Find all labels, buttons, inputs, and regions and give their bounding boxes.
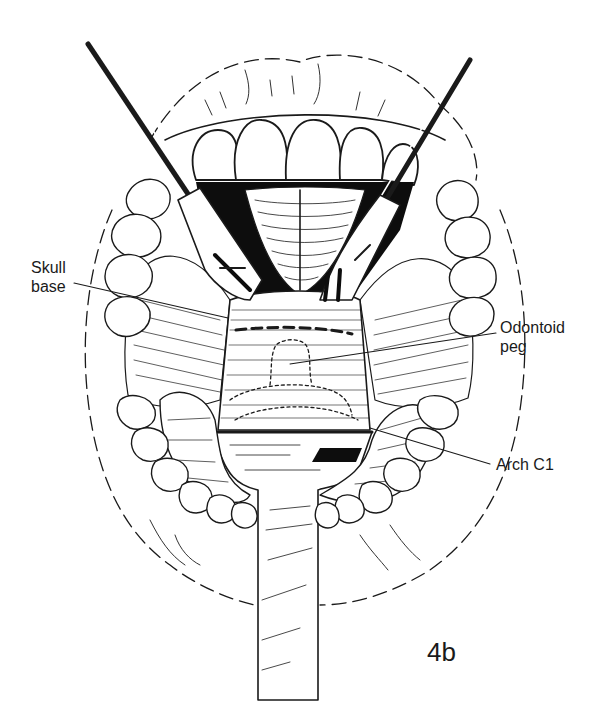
retractor-shadow xyxy=(312,448,362,462)
figure-number: 4b xyxy=(427,637,456,668)
illustration xyxy=(0,0,613,714)
upper-teeth xyxy=(193,120,418,185)
posterior-pharyngeal-wall xyxy=(218,291,370,430)
label-skull-base: Skull base xyxy=(31,258,66,296)
label-arch-c1: Arch C1 xyxy=(496,455,554,474)
tongue-retractor-blade xyxy=(214,432,372,700)
label-odontoid-peg: Odontoid peg xyxy=(500,318,565,356)
upper-lip-hatching xyxy=(205,64,385,116)
surgical-illustration xyxy=(0,0,613,714)
